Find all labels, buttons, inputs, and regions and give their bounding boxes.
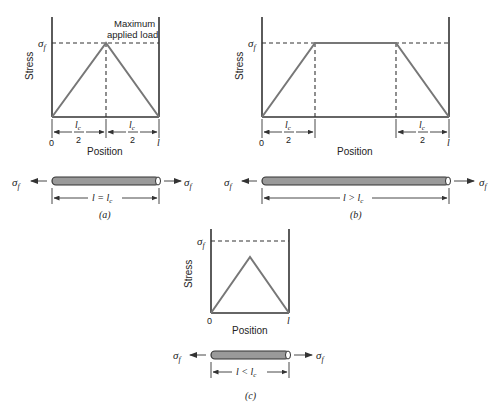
panel-a-dimensions: lc 2 lc 2 0 l Position xyxy=(49,119,160,157)
svg-text:lc: lc xyxy=(129,119,136,132)
svg-text:σf: σf xyxy=(173,349,182,364)
svg-text:σf: σf xyxy=(479,176,488,191)
svg-text:2: 2 xyxy=(420,135,425,145)
svg-text:Stress: Stress xyxy=(183,260,194,288)
panel-b-dimensions: lc 2 lc 2 0 l Position xyxy=(259,119,450,157)
svg-text:lc: lc xyxy=(75,119,82,132)
svg-text:l: l xyxy=(287,315,290,326)
panel-b-plot: Stress σf xyxy=(234,17,449,117)
svg-text:lc: lc xyxy=(419,119,426,132)
panel-c-plot: Stress σf 0 l Position xyxy=(183,229,290,336)
fiber-c xyxy=(211,351,289,359)
panel-c-fiber: σf σf l < lc (c) xyxy=(173,349,325,402)
annotation-line-2: applied load xyxy=(107,29,158,40)
svg-text:2: 2 xyxy=(286,135,291,145)
svg-text:2: 2 xyxy=(76,135,81,145)
panel-a-plot: Stress σf Maximum applied load xyxy=(24,17,159,117)
panel-a: Stress σf Maximum applied load lc 2 lc 2… xyxy=(12,17,193,221)
panel-c: Stress σf 0 l Position σf σf l < lc (c) xyxy=(173,229,325,402)
panel-b-fiber: σf σf l > lc (b) xyxy=(224,176,488,221)
stress-profile-b xyxy=(262,43,449,117)
svg-text:σf: σf xyxy=(248,37,257,52)
svg-text:Stress: Stress xyxy=(234,52,245,80)
svg-text:σf: σf xyxy=(316,349,325,364)
caption-c: (c) xyxy=(245,390,257,402)
svg-text:l: l xyxy=(447,137,450,148)
svg-text:σf: σf xyxy=(197,235,206,250)
svg-text:Position: Position xyxy=(337,146,373,157)
fiber-b xyxy=(262,177,449,185)
svg-text:0: 0 xyxy=(207,316,212,326)
svg-text:lc: lc xyxy=(285,119,292,132)
annotation-line-1: Maximum xyxy=(114,18,155,29)
sigma-f-label: σf xyxy=(38,37,47,52)
panel-b: Stress σf lc 2 lc 2 0 l Position σf xyxy=(224,17,488,221)
svg-text:0: 0 xyxy=(259,138,264,148)
length-relation-a: l = lc xyxy=(92,192,113,205)
svg-text:σf: σf xyxy=(224,176,233,191)
length-relation-b: l > lc xyxy=(343,192,364,205)
stress-profile-c xyxy=(211,257,289,313)
svg-text:2: 2 xyxy=(130,135,135,145)
caption-b: (b) xyxy=(350,209,362,221)
x-axis-label: Position xyxy=(87,146,123,157)
svg-text:σf: σf xyxy=(12,176,21,191)
origin-label: 0 xyxy=(49,138,54,148)
end-label: l xyxy=(157,137,160,148)
length-relation-c: l < lc xyxy=(236,366,257,379)
stress-position-figure: Stress σf Maximum applied load lc 2 lc 2… xyxy=(0,0,497,414)
svg-text:σf: σf xyxy=(184,176,193,191)
caption-a: (a) xyxy=(99,209,111,221)
svg-text:Position: Position xyxy=(232,325,268,336)
y-axis-label: Stress xyxy=(24,52,35,80)
fiber-a xyxy=(52,177,159,185)
panel-a-fiber: σf σf l = lc (a) xyxy=(12,176,193,221)
